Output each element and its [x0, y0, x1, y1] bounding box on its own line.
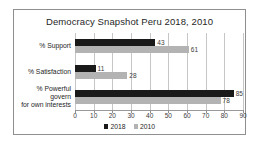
legend-swatch-2018	[104, 124, 109, 129]
category-label: % Support	[16, 42, 71, 50]
legend-item: 2010	[134, 123, 156, 130]
bar-2010	[75, 72, 127, 79]
plot-area: 436111288578	[75, 33, 243, 111]
bar-2018	[75, 65, 96, 72]
x-tick-label: 80	[221, 112, 228, 119]
chart-title: Democracy Snapshot Peru 2018, 2010	[14, 16, 245, 27]
bar-value-label: 78	[223, 97, 230, 104]
legend-swatch-2010	[134, 124, 139, 129]
x-tick-label: 20	[109, 112, 116, 119]
x-tick-label: 50	[165, 112, 172, 119]
chart-frame: Democracy Snapshot Peru 2018, 2010 % Sup…	[13, 9, 246, 135]
bar-2018	[75, 39, 155, 46]
legend-item: 2018	[104, 123, 126, 130]
category-label: % Powerful govern for own interests	[16, 85, 71, 108]
gridline	[243, 33, 244, 110]
bar-2010	[75, 46, 189, 53]
category-label: % Satisfaction	[16, 68, 71, 76]
bar-2018	[75, 90, 234, 97]
bar-value-label: 28	[129, 72, 136, 79]
bar-value-label: 85	[236, 90, 243, 97]
x-tick-label: 0	[73, 112, 77, 119]
x-tick-label: 40	[146, 112, 153, 119]
x-tick-label: 10	[90, 112, 97, 119]
x-tick-label: 30	[127, 112, 134, 119]
bar-2010	[75, 97, 221, 104]
bar-value-label: 61	[191, 46, 198, 53]
legend: 20182010	[14, 123, 245, 130]
legend-label: 2010	[140, 123, 155, 130]
bar-value-label: 43	[157, 39, 164, 46]
legend-label: 2018	[110, 123, 125, 130]
category-column: % Support% Satisfaction% Powerful govern…	[16, 33, 71, 110]
x-tick-label: 60	[183, 112, 190, 119]
x-axis: 0102030405060708090	[75, 112, 243, 121]
x-tick-label: 70	[202, 112, 209, 119]
bar-value-label: 11	[98, 65, 105, 72]
x-tick-label: 90	[239, 112, 246, 119]
